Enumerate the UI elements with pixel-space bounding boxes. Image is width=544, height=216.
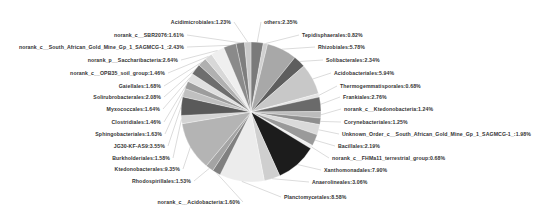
pie-chart [0,0,544,216]
slice-label: norank_c__Acidobacteria:1.60% [158,199,240,205]
leader-line [300,60,324,62]
leader-line [320,121,341,122]
slice-label: Thermogemmatisporales:0.68% [340,83,421,89]
slice-label: Tepidisphaerales:0.82% [302,32,363,38]
leader-line [321,109,341,115]
slice-label: Myxococcales:1.64% [107,106,160,112]
slice-label: norank_c__FHMa11_terrestrial_group:0.68% [332,155,445,161]
leader-line [297,165,321,171]
leader-line [319,86,337,95]
leader-line [187,45,230,47]
slice-label: others:2.35% [264,19,298,25]
slice-label: norank_p__Saccharibacteria:2.64% [88,57,178,63]
slice-label: Acidimicrobiales:1.23% [171,19,231,25]
slice-label: Burkholderiales:1.58% [112,155,170,161]
leader-line [282,47,315,49]
leader-line [234,22,248,42]
leader-line [319,130,339,134]
leader-line [272,179,309,182]
leader-line [194,168,209,181]
slice-label: norank_c__Ktedonobacteria:1.24% [344,106,433,112]
slice-label: Anaerolineales:3.06% [312,179,367,185]
slice-label: Corynebacteriales:1.25% [344,119,408,125]
slice-label: Unknown_Order_c__South_African_Gold_Mine… [342,131,531,137]
slice-label: Xanthomonadales:7.90% [324,167,387,173]
pie-slices [181,42,321,182]
leader-line [315,140,335,146]
leader-line [266,35,300,44]
leader-line [187,35,240,43]
slice-label: Ktedonobacterales:9.35% [115,166,180,172]
slice-label: Frankiales:2.76% [343,94,387,100]
leader-line [312,147,329,158]
slice-label: Bacillales:2.19% [338,143,380,149]
slice-label: Solirubrobacterales:2.08% [93,94,161,100]
leader-line [321,97,340,104]
leader-line [183,147,190,169]
slice-label: Gaiellales:1.68% [119,83,161,89]
slice-label: Planctomycetales:8.58% [284,194,346,200]
leader-line [242,181,281,197]
slice-label: Clostridiales:1.46% [112,119,161,125]
leader-line [173,120,181,158]
slice-label: norank_c__South_African_Gold_Mine_Gp_1_S… [19,44,184,50]
slice-label: Sphingobacteriales:1.63% [95,131,162,137]
leader-line [257,22,261,42]
slice-label: JG30-KF-AS9:3.55% [114,143,165,149]
slice-label: Rhizobiales:5.78% [318,44,365,50]
slice-label: Acidobacteriales:5.94% [334,70,394,76]
slice-label: Rhodospirillales:1.53% [132,178,191,184]
slice-label: norank_c__OPB35_soil_group:1.46% [70,70,165,76]
slice-label: Solibacterales:2.34% [326,57,380,63]
slice-label: norank_c__SBR2076:1.61% [114,32,184,38]
leader-line [313,73,331,79]
